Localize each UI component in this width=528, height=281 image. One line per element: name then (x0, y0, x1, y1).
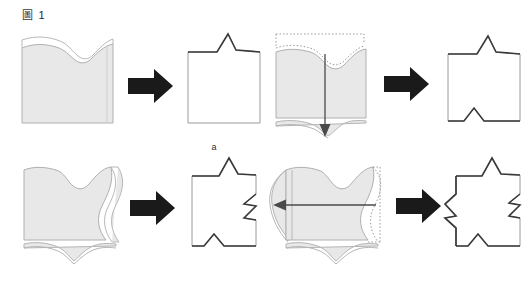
panel-d-transform-arrow (396, 189, 441, 223)
panel-b: b (262, 22, 526, 138)
panel-d-result-shape (445, 158, 520, 246)
panel-c-result-shape (192, 158, 256, 246)
panel-b-input-shape (276, 34, 366, 138)
panel-a-result-shape (188, 34, 260, 123)
figure-container: 圖1 a (0, 0, 528, 281)
panel-c-input-shape (24, 167, 123, 264)
panel-b-transform-arrow (384, 67, 429, 101)
panel-d-input-shape (270, 167, 381, 264)
figure-caption: 圖1 (22, 7, 45, 24)
panel-c-transform-arrow (130, 191, 175, 225)
panel-a-input-shape (22, 37, 113, 123)
panel-c: c (6, 148, 262, 266)
panel-a: a (12, 26, 262, 130)
figure-caption-number: 1 (39, 9, 46, 21)
panel-a-transform-arrow (128, 69, 173, 103)
panel-d: d (256, 146, 528, 268)
panel-b-result-shape (448, 36, 520, 121)
figure-caption-cjk: 圖 (22, 9, 34, 22)
